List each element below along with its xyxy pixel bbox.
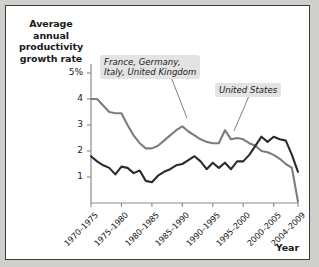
series-line (91, 99, 298, 202)
y-axis-tick-label: 4 (61, 93, 83, 103)
y-axis-tick-label: 1 (61, 171, 83, 181)
europe-series-label: France, Germany, Italy, United Kingdom (100, 55, 200, 79)
series-lines (91, 99, 298, 202)
europe-series-label-line1: France, Germany, (104, 57, 196, 68)
series-line (91, 137, 298, 183)
us-series-label: United States (215, 83, 281, 97)
y-axis-tick-label: 3 (61, 119, 83, 129)
us-leader-line (234, 96, 249, 131)
y-axis-tick-label: 2 (61, 145, 83, 155)
x-axis-ticks (91, 203, 298, 207)
y-axis-tick-label: 5% (61, 67, 83, 77)
annotation-leader-lines (169, 72, 249, 131)
europe-series-label-line2: Italy, United Kingdom (104, 67, 196, 78)
chart-card: Average annual productivity growth rate … (5, 5, 310, 260)
us-series-label-line1: United States (219, 85, 277, 96)
